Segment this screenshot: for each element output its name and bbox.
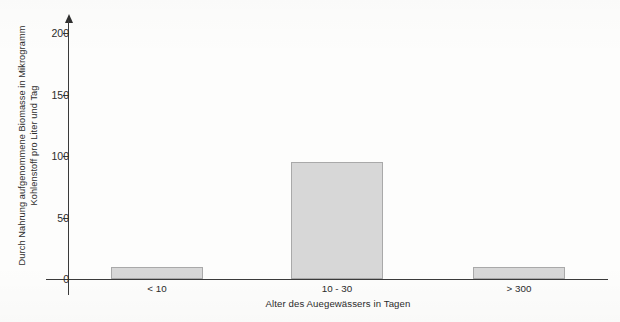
- x-axis-category-label: 10 - 30: [291, 283, 383, 294]
- x-axis-title: Alter des Auegewässers in Tagen: [68, 298, 608, 309]
- x-axis-category-label: < 10: [111, 283, 203, 294]
- y-axis-tick-label: 0: [41, 273, 69, 285]
- plot-area: 050100150200 < 1010 - 30> 300 Alter des …: [0, 0, 620, 322]
- y-axis-tick-label: 100: [41, 150, 69, 162]
- y-axis-tick-label: 50: [41, 212, 69, 224]
- bar: [111, 267, 203, 279]
- y-axis-tick-label: 200: [41, 27, 69, 39]
- x-axis-line: [46, 279, 608, 280]
- y-axis-tick-label: 150: [41, 89, 69, 101]
- bar-chart-figure: Durch Nahrung aufgenommene Biomasse in M…: [0, 0, 620, 322]
- x-axis-category-label: > 300: [473, 283, 565, 294]
- bar: [291, 162, 383, 279]
- bar: [473, 267, 565, 279]
